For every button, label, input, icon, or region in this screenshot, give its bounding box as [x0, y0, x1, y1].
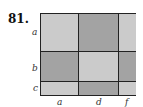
cell-b-d: [79, 52, 119, 82]
cell-c-f: [119, 82, 136, 95]
column-label-d: d: [96, 97, 102, 107]
column-label-a: a: [57, 97, 62, 107]
area-diagram: [40, 13, 136, 96]
row-label-a: a: [32, 27, 37, 37]
problem-number: 81.: [8, 12, 29, 26]
row-label-b: b: [32, 63, 38, 73]
cell-b-a: [41, 52, 79, 82]
cell-a-d: [79, 14, 119, 52]
cell-b-f: [119, 52, 136, 82]
cell-a-f: [119, 14, 136, 52]
cell-c-a: [41, 82, 79, 95]
column-label-f: f: [125, 97, 128, 107]
cell-a-a: [41, 14, 79, 52]
cell-c-d: [79, 82, 119, 95]
row-label-c: c: [33, 83, 38, 93]
